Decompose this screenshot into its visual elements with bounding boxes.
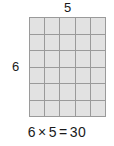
rows-count-label: 6 — [4, 16, 27, 117]
array-cell — [45, 84, 59, 100]
multiplication-sign-icon: × — [36, 124, 49, 140]
array-cell — [30, 35, 44, 51]
array-cell — [45, 51, 59, 67]
equation-product: 30 — [70, 124, 87, 140]
array-cell — [91, 68, 105, 84]
equation-left-factor: 6 — [28, 124, 36, 140]
array-cell — [30, 84, 44, 100]
array-cell — [91, 35, 105, 51]
equals-sign-icon: = — [57, 124, 70, 140]
array-cell — [30, 18, 44, 34]
array-cell — [60, 35, 74, 51]
array-cell — [91, 18, 105, 34]
array-cell — [30, 101, 44, 117]
array-cell — [60, 51, 74, 67]
array-cell — [76, 68, 90, 84]
array-cell — [60, 18, 74, 34]
array-cell — [45, 101, 59, 117]
multiplication-array-figure: 5 6 6×5=30 — [0, 0, 114, 146]
array-cell — [76, 84, 90, 100]
array-cell — [60, 68, 74, 84]
array-cell — [76, 18, 90, 34]
equation-text: 6×5=30 — [0, 120, 114, 144]
array-cell — [91, 101, 105, 117]
array-cell — [76, 35, 90, 51]
array-cell — [45, 35, 59, 51]
array-cell — [30, 51, 44, 67]
array-cell — [45, 68, 59, 84]
equation-right-factor: 5 — [49, 124, 57, 140]
array-cell — [76, 51, 90, 67]
array-grid — [29, 17, 106, 117]
array-cell — [30, 68, 44, 84]
array-cell — [60, 84, 74, 100]
array-cell — [91, 51, 105, 67]
columns-count-label: 5 — [29, 0, 106, 16]
array-cell — [45, 18, 59, 34]
array-cell — [91, 84, 105, 100]
array-cell — [60, 101, 74, 117]
array-cell — [76, 101, 90, 117]
